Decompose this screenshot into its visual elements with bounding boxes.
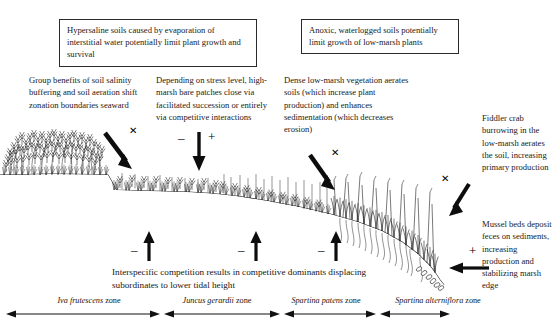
marker-competition-3-sign: – [318,243,325,256]
arrow-mussel-beds [449,261,489,275]
zone-0-species: Iva frutescens [57,296,103,305]
marker-facilitation-seaward-sign: ✕ [129,126,137,136]
arrow-bare-patch-closure [191,132,207,172]
zone-2-suffix: zone [343,296,361,305]
arrow-competition-3 [329,231,343,261]
hypersaline-soils-text: Hypersaline soils caused by evaporation … [67,25,241,59]
zone-label-juncus-gerardii: Juncus gerardii zone [144,296,290,306]
zone-axis: Iva frutescens zone Juncus gerardii zone… [0,296,555,325]
arrow-facilitation-seaward [100,128,144,174]
zone-range-bars [0,308,555,325]
bare-patches-text: Depending on stress level, high-marsh ba… [156,75,267,122]
interspecific-competition-caption: Interspecific competition results in com… [112,266,412,293]
fiddler-crab-text: Fiddler crab burrowing in the low-marsh … [482,113,549,172]
marker-aeration-cross-sign: ✕ [331,148,339,158]
zone-bar-spartina-alterniflora [380,311,450,318]
marker-fiddler-cross-sign: ✕ [441,174,449,184]
zone-3-suffix: zone [463,296,481,305]
group-benefits-text: Group benefits of soil salinity bufferin… [29,75,137,110]
dense-vegetation-note: Dense low-marsh vegetation aerates soils… [284,74,414,135]
zone-1-suffix: zone [234,296,252,305]
arrow-vegetation-aeration [306,152,346,194]
zone-bar-juncus [164,311,280,318]
caption-text: Interspecific competition results in com… [112,267,366,290]
arrow-competition-1 [142,231,156,261]
arrow-competition-2 [249,231,263,261]
zone-label-spartina-patens: Spartina patens zone [272,296,380,306]
hypersaline-soils-callout-box: Hypersaline soils caused by evaporation … [59,19,257,67]
arrow-fiddler-crab [447,181,483,221]
anoxic-soils-callout-box: Anoxic, waterlogged soils potentially li… [301,19,459,54]
zone-label-spartina-alterniflora: Spartina alterniflora zone [372,296,504,306]
zone-bar-spartina-patens [284,311,376,318]
marker-bare-patch-positive-sign: + [208,130,215,143]
zone-1-species: Juncus gerardii [183,296,234,305]
mussel-beds-note: Mussel beds deposit feces on sediments, … [482,218,552,292]
anoxic-soils-text: Anoxic, waterlogged soils potentially li… [309,25,438,47]
dense-vegetation-text: Dense low-marsh vegetation aerates soils… [284,75,408,134]
group-benefits-note: Group benefits of soil salinity bufferin… [29,74,151,111]
zone-3-species: Spartina alterniflora [395,296,463,305]
marker-competition-2-sign: – [238,243,245,256]
marker-mussel-positive-sign: + [469,244,476,257]
zone-bar-iva [6,311,160,318]
iva-frutescens-shrub [2,129,109,175]
marker-competition-1-sign: – [131,243,138,256]
zone-0-suffix: zone [103,296,121,305]
fiddler-crab-note: Fiddler crab burrowing in the low-marsh … [482,112,554,173]
bare-patches-note: Depending on stress level, high-marsh ba… [156,74,278,123]
zone-2-species: Spartina patens [291,296,343,305]
mussel-beds-text: Mussel beds deposit feces on sediments, … [482,219,552,290]
zone-label-iva-frutescens: Iva frutescens zone [16,296,162,306]
marsh-zonation-diagram: Hypersaline soils caused by evaporation … [0,0,555,325]
marker-bare-patch-negative-sign: – [178,131,185,144]
